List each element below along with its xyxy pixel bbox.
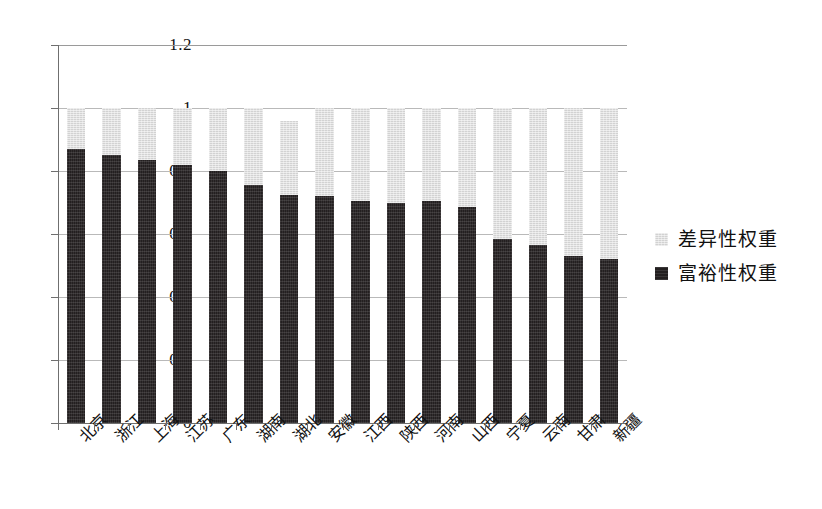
- y-tick-mark: [51, 360, 58, 361]
- bar-segment-differential-weight[interactable]: [67, 108, 85, 149]
- bar-segment-differential-weight[interactable]: [387, 108, 405, 203]
- bar-group[interactable]: [129, 45, 165, 423]
- x-tick-mark: [165, 423, 166, 430]
- bar-segment-differential-weight[interactable]: [280, 121, 298, 195]
- stacked-bar[interactable]: [244, 108, 262, 423]
- bar-segment-differential-weight[interactable]: [102, 108, 120, 155]
- bar-segment-affluence-weight[interactable]: [280, 195, 298, 423]
- bar-segment-affluence-weight[interactable]: [173, 165, 191, 423]
- bar-group[interactable]: [307, 45, 343, 423]
- bar-segment-affluence-weight[interactable]: [387, 203, 405, 424]
- bar-segment-affluence-weight[interactable]: [422, 201, 440, 423]
- bar-group[interactable]: [591, 45, 627, 423]
- x-tick-mark: [520, 423, 521, 430]
- bar-group[interactable]: [378, 45, 414, 423]
- stacked-bar[interactable]: [387, 108, 405, 423]
- bar-segment-differential-weight[interactable]: [564, 108, 582, 256]
- x-tick-mark: [627, 423, 628, 430]
- bar-group[interactable]: [520, 45, 556, 423]
- bars-layer: [58, 45, 627, 423]
- bar-segment-differential-weight[interactable]: [351, 108, 369, 201]
- bar-group[interactable]: [485, 45, 521, 423]
- bar-segment-affluence-weight[interactable]: [138, 160, 156, 423]
- bar-segment-differential-weight[interactable]: [600, 108, 618, 259]
- bar-group[interactable]: [343, 45, 379, 423]
- x-tick-mark: [378, 423, 379, 430]
- legend-item[interactable]: 富裕性权重: [655, 256, 815, 290]
- bar-segment-differential-weight[interactable]: [138, 108, 156, 160]
- legend-label-differential-weight: 差异性权重: [678, 230, 778, 249]
- stacked-bar[interactable]: [173, 108, 191, 423]
- bar-group[interactable]: [94, 45, 130, 423]
- bar-segment-affluence-weight[interactable]: [564, 256, 582, 423]
- stacked-bar[interactable]: [209, 108, 227, 423]
- x-tick-mark: [343, 423, 344, 430]
- stacked-bar[interactable]: [529, 108, 547, 423]
- stacked-bar[interactable]: [280, 121, 298, 423]
- legend-item[interactable]: 差异性权重: [655, 222, 815, 256]
- stacked-bar[interactable]: [458, 108, 476, 423]
- x-tick-mark: [236, 423, 237, 430]
- bar-group[interactable]: [271, 45, 307, 423]
- x-tick-mark: [591, 423, 592, 430]
- bar-segment-differential-weight[interactable]: [529, 108, 547, 245]
- legend-swatch-affluence-weight: [655, 267, 668, 280]
- x-tick-mark: [129, 423, 130, 430]
- stacked-bar[interactable]: [102, 108, 120, 423]
- x-tick-mark: [556, 423, 557, 430]
- stacked-bar[interactable]: [351, 108, 369, 423]
- y-tick-mark: [51, 45, 58, 46]
- bar-segment-differential-weight[interactable]: [315, 108, 333, 196]
- x-tick-mark: [449, 423, 450, 430]
- bar-group[interactable]: [58, 45, 94, 423]
- bar-segment-affluence-weight[interactable]: [458, 207, 476, 423]
- bar-group[interactable]: [165, 45, 201, 423]
- x-tick-mark: [307, 423, 308, 430]
- bar-segment-affluence-weight[interactable]: [209, 171, 227, 423]
- bar-segment-affluence-weight[interactable]: [351, 201, 369, 423]
- x-tick-mark: [271, 423, 272, 430]
- x-tick-mark: [414, 423, 415, 430]
- bar-segment-differential-weight[interactable]: [422, 108, 440, 201]
- bar-group[interactable]: [449, 45, 485, 423]
- bar-segment-affluence-weight[interactable]: [600, 259, 618, 423]
- y-tick-mark: [51, 297, 58, 298]
- x-tick-mark: [200, 423, 201, 430]
- bar-segment-differential-weight[interactable]: [244, 108, 262, 185]
- bar-group[interactable]: [556, 45, 592, 423]
- y-tick-mark: [51, 234, 58, 235]
- stacked-bar[interactable]: [493, 108, 511, 423]
- bar-segment-affluence-weight[interactable]: [529, 245, 547, 423]
- bar-group[interactable]: [414, 45, 450, 423]
- bar-segment-affluence-weight[interactable]: [67, 149, 85, 423]
- bar-segment-differential-weight[interactable]: [173, 108, 191, 165]
- y-tick-mark: [51, 108, 58, 109]
- stacked-bar[interactable]: [315, 108, 333, 423]
- y-tick-mark: [51, 171, 58, 172]
- chart-legend: 差异性权重 富裕性权重: [655, 222, 815, 290]
- bar-segment-affluence-weight[interactable]: [102, 155, 120, 423]
- bar-segment-differential-weight[interactable]: [209, 108, 227, 171]
- stacked-bar[interactable]: [422, 108, 440, 423]
- x-tick-mark: [485, 423, 486, 430]
- bar-group[interactable]: [236, 45, 272, 423]
- legend-swatch-differential-weight: [655, 233, 668, 246]
- stacked-bar[interactable]: [138, 108, 156, 423]
- chart-figure: 00.20.40.60.811.2 北京浙江上海江苏广东湖南湖北安徽江西陕西河南…: [0, 0, 822, 509]
- bar-segment-affluence-weight[interactable]: [244, 185, 262, 423]
- bar-group[interactable]: [200, 45, 236, 423]
- x-axis: 北京浙江上海江苏广东湖南湖北安徽江西陕西河南山西宁夏云南甘肃新疆: [58, 423, 627, 509]
- stacked-bar[interactable]: [564, 108, 582, 423]
- stacked-bar[interactable]: [67, 108, 85, 423]
- legend-label-affluence-weight: 富裕性权重: [678, 264, 778, 283]
- bar-segment-differential-weight[interactable]: [493, 108, 511, 239]
- bar-segment-affluence-weight[interactable]: [315, 196, 333, 423]
- y-tick-mark: [51, 423, 58, 424]
- bar-segment-differential-weight[interactable]: [458, 108, 476, 207]
- x-tick-mark: [94, 423, 95, 430]
- x-tick-mark: [58, 423, 59, 430]
- stacked-bar[interactable]: [600, 108, 618, 423]
- bar-segment-affluence-weight[interactable]: [493, 239, 511, 423]
